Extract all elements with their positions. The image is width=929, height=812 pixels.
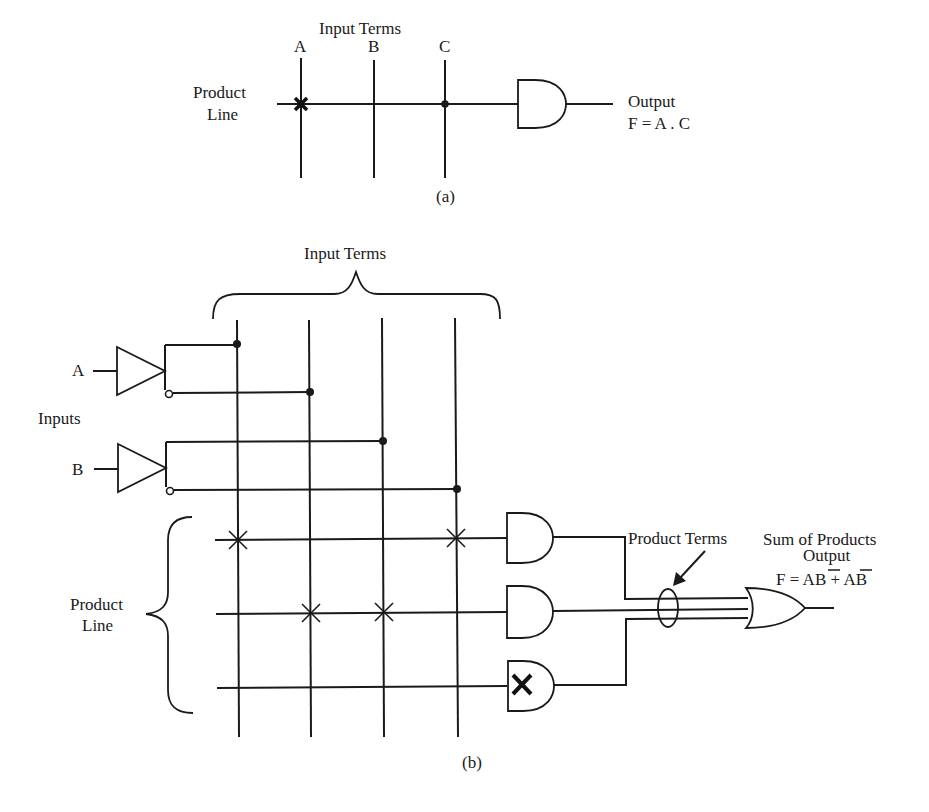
output-expression-b: F = AB + AB [776,570,872,589]
product-line-brace-icon [146,517,193,713]
input-term-line-b-bar [455,318,458,737]
input-label-a: A [294,37,307,56]
and-gate-icon [518,80,566,128]
connection-dot-icon [453,485,461,493]
input-term-line-a-bar [309,320,311,737]
expr-a-bar: A [843,570,856,589]
inputs-label: Inputs [38,409,81,428]
wire-b-true [166,441,383,468]
connection-dot-icon [306,388,314,396]
or-gate-icon [746,588,805,628]
inverter-bubble-b-icon [167,488,174,495]
input-label-a: A [72,361,85,380]
product-term-wire-3 [554,618,748,685]
wire-a-true [165,345,237,371]
product-line-label-b-2: Line [82,616,113,635]
product-terms-ellipse-icon [658,589,678,627]
inverter-bubble-a-icon [166,391,173,398]
product-line-label-b-1: Product [70,595,123,614]
product-line-1 [215,538,507,540]
product-line-label-a-1: Product [193,83,246,102]
output-label-b: Output [803,546,851,565]
product-line-3 [217,686,507,688]
output-expr-a: F = A . C [628,114,690,133]
expr-prefix: F = A [776,570,816,589]
svg-text:F = AB + AB: F = AB + AB [776,570,867,589]
and-gate-2-icon [507,586,553,638]
input-label-c: C [439,37,450,56]
input-terms-label-b: Input Terms [304,244,386,263]
input-terms-brace-icon [213,272,500,319]
connection-dot-icon [441,100,449,108]
wire-b-complement [174,489,457,490]
input-term-line-b [382,318,384,737]
caption-b: (b) [462,753,482,772]
connection-dot-icon [233,340,241,348]
product-term-wire-2 [553,609,748,611]
expr-b-bar: B [815,570,826,589]
product-terms-label: Product Terms [628,529,727,548]
arrow-shaft [680,551,705,578]
caption-a: (a) [436,187,455,206]
pla-diagram: Input Terms A B C Product Line Output F … [0,0,929,812]
input-term-line-a [237,320,239,737]
and-gate-1-icon [507,513,553,563]
part-b: Input Terms A Inputs B Product Line [38,244,876,772]
input-label-b: B [368,37,379,56]
wire-a-complement [173,392,310,393]
product-line-2 [216,612,507,614]
part-a: Input Terms A B C Product Line Output F … [193,19,690,206]
expr-suffix: B [856,570,867,589]
product-line-label-a-2: Line [207,105,238,124]
buffer-b-icon [118,444,166,492]
input-terms-label-a: Input Terms [319,19,401,38]
expr-plus: + [826,570,843,589]
input-label-b: B [72,460,83,479]
and-gate-3-disabled-icon [508,661,554,711]
output-label-a: Output [628,92,676,111]
connection-dot-icon [379,437,387,445]
buffer-a-icon [117,347,165,395]
